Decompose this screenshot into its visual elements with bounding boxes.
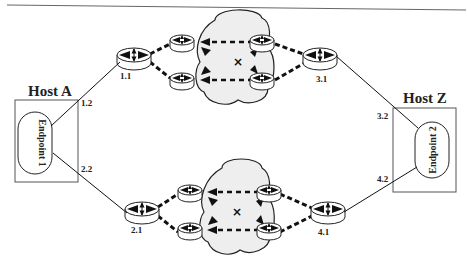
- router-bottom-inner-3: [257, 185, 281, 202]
- host-z-label: Host Z: [403, 90, 447, 106]
- port-4-2: 4.2: [377, 174, 389, 184]
- port-3-2: 3.2: [377, 111, 389, 121]
- router-bottom-inner-4: [257, 223, 281, 240]
- router-1-1: [117, 48, 151, 70]
- host-a: Endpoint 1 Host A: [15, 83, 78, 182]
- port-3-1: 3.1: [316, 74, 328, 84]
- network-diagram: × × Endpoint 1 Host A: [0, 0, 468, 268]
- bottom-cloud: ×: [200, 159, 274, 254]
- endpoint-1-label: Endpoint 1: [37, 119, 48, 167]
- router-bottom-inner-2: [178, 223, 202, 240]
- router-top-inner-2: [170, 73, 194, 90]
- router-3-1: [303, 48, 337, 70]
- router-bottom-inner-1: [178, 185, 202, 202]
- router-top-inner-4: [250, 73, 274, 90]
- router-top-inner-1: [170, 35, 194, 52]
- port-2-1: 2.1: [131, 225, 143, 235]
- port-2-2: 2.2: [81, 164, 93, 174]
- port-4-1: 4.1: [318, 227, 330, 237]
- router-top-inner-3: [250, 35, 274, 52]
- port-1-1: 1.1: [120, 71, 132, 81]
- top-rule: [7, 5, 466, 10]
- link-2: [53, 153, 127, 213]
- host-z: Endpoint 2 Host Z: [393, 90, 456, 192]
- failure-marker-top: ×: [233, 55, 243, 69]
- router-2-1: [125, 202, 159, 224]
- failure-marker-bottom: ×: [232, 205, 242, 219]
- router-4-1: [311, 202, 345, 224]
- port-1-2: 1.2: [81, 98, 93, 108]
- host-a-label: Host A: [28, 83, 72, 99]
- endpoint-2-label: Endpoint 2: [427, 126, 438, 174]
